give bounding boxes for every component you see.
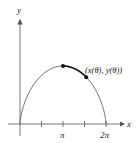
- peak-point: [61, 64, 65, 68]
- highlighted-arc: [63, 66, 86, 77]
- cycloid-diagram: y x π 2π (x(θ), y(θ)): [0, 0, 140, 143]
- tick-label-2pi: 2π: [100, 130, 110, 140]
- point-label: (x(θ), y(θ)): [85, 65, 122, 75]
- moving-point: [84, 75, 88, 79]
- tick-label-pi: π: [60, 130, 65, 140]
- x-axis-label: x: [126, 119, 131, 129]
- y-axis-label: y: [16, 5, 21, 15]
